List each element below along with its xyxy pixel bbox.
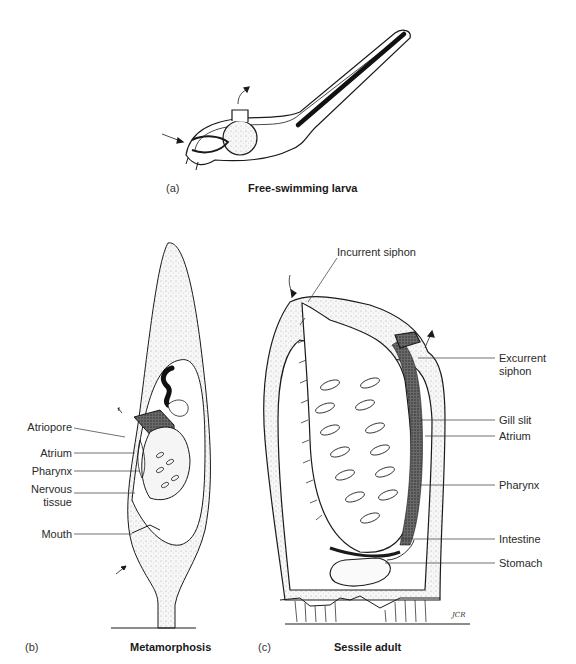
tunicate-diagram [0,0,576,664]
label-atrium-b: Atrium [18,447,72,459]
larva-drawing [162,30,410,170]
panel-letter-b: (b) [25,641,38,653]
panel-letter-a: (a) [166,182,179,194]
artist-signature: JCR [452,611,465,619]
label-pharynx-c: Pharynx [499,479,539,491]
label-atrium-c: Atrium [499,430,531,442]
label-gill-slit: Gill slit [499,414,531,426]
adult-drawing [264,275,470,624]
label-pharynx-b: Pharynx [18,465,72,477]
caption-free-swimming-larva: Free-swimming larva [248,182,357,194]
label-nervous-tissue-line1: Nervous [18,483,72,495]
caption-sessile-adult: Sessile adult [334,641,401,653]
label-intestine: Intestine [499,533,541,545]
label-excurrent-siphon-line2: siphon [499,365,531,377]
label-excurrent-siphon-line1: Excurrent [499,352,546,364]
label-incurrent-siphon: Incurrent siphon [337,246,416,258]
label-atriopore: Atriopore [18,421,72,433]
panel-letter-c: (c) [258,641,271,653]
caption-metamorphosis: Metamorphosis [130,641,211,653]
metamorphosis-drawing [111,243,210,628]
label-nervous-tissue-line2: tissue [18,496,72,508]
label-stomach: Stomach [499,557,542,569]
label-mouth: Mouth [18,528,72,540]
